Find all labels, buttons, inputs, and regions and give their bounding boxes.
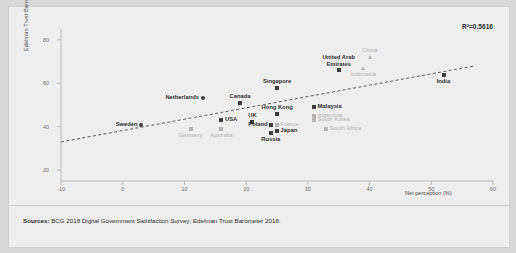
scatter-plot: Edelman Trust Barometer Net perception (… [9,7,509,205]
data-point-marker [219,118,223,122]
r-squared-annotation: R²=0.5616 [462,23,493,30]
data-point-marker [269,123,273,127]
data-point-marker [219,127,223,131]
y-tick-label: 80 [37,37,55,43]
x-tick-label: -10 [50,186,72,192]
screenshot-root: Edelman Trust Barometer Net perception (… [0,0,516,253]
data-point-marker [275,129,279,133]
data-point-label: China [362,48,377,54]
data-point-label: UK [248,113,256,119]
data-point-label: Canada [229,94,250,100]
data-point-label: Russia [261,137,280,143]
data-point-label: Sweden [116,122,138,128]
data-point-marker [269,131,273,135]
data-point-label: South Africa [330,126,361,132]
data-point-label: Hong Kong [262,105,293,111]
x-tick-label: 50 [420,186,442,192]
chart-card: Edelman Trust Barometer Net perception (… [8,6,510,248]
data-point-marker [139,123,143,127]
x-tick-label: 10 [173,186,195,192]
footer-divider [9,205,509,206]
y-tick-label: 40 [37,124,55,130]
y-tick-label: 20 [37,167,55,173]
data-point-label: Malaysia [318,104,342,110]
data-point-label: Japan [281,128,298,134]
x-tick-label: 20 [235,186,257,192]
y-tick-marks [57,40,61,170]
data-point-marker [312,118,316,122]
x-tick-label: 0 [112,186,134,192]
data-point-label: Singapore [263,79,291,85]
x-tick-marks [61,181,493,185]
data-point-marker [368,55,372,59]
sources-label: Sources: [23,217,49,224]
data-point-marker [324,127,328,131]
data-point-marker [238,101,242,105]
data-point-marker [189,127,193,131]
data-point-marker [312,105,316,109]
x-tick-label: 30 [297,186,319,192]
data-point-marker [275,123,279,127]
x-tick-label: 60 [482,186,504,192]
data-point-label: Poland [248,122,267,128]
data-point-marker [361,66,365,70]
data-point-marker [275,112,279,116]
plot-svg [9,7,509,205]
data-point-label: Germany [179,133,203,139]
data-point-marker [337,68,341,72]
data-point-label: Australia [210,133,233,139]
sources-footnote: Sources: BCG 2018 Digital Government Sat… [23,217,281,224]
y-axis-title: Edelman Trust Barometer [23,0,29,63]
data-point-label: United Arab Emirates [319,54,359,68]
data-point-label: Netherlands [165,95,199,101]
sources-text: BCG 2018 Digital Government Satisfaction… [49,217,280,224]
x-tick-label: 40 [359,186,381,192]
data-point-label: South Korea [318,117,350,123]
data-point-label: India [437,79,451,85]
y-tick-label: 60 [37,80,55,86]
data-point-label: Indonesia [351,72,376,78]
data-point-marker [275,86,279,90]
data-point-marker [442,73,446,77]
data-point-label: USA [225,117,237,123]
